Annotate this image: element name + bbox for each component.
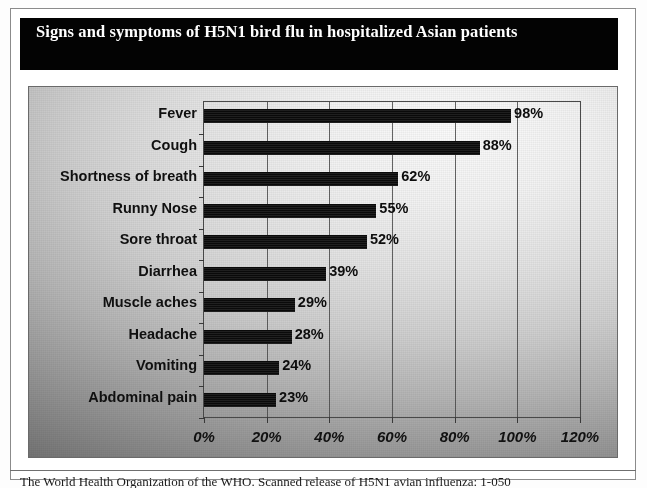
bar-value-label: 28% (295, 325, 324, 344)
bar (204, 393, 276, 407)
bar-value-label: 23% (279, 388, 308, 407)
chart-row: Headache28% (204, 323, 580, 355)
chart-row: Abdominal pain23% (204, 386, 580, 418)
bar-value-label: 24% (282, 356, 311, 375)
x-tick-40% (329, 417, 330, 423)
chart-row: Muscle aches29% (204, 291, 580, 323)
bar-value-label: 62% (401, 167, 430, 186)
caption-divider (10, 470, 636, 471)
chart-row: Diarrhea39% (204, 260, 580, 292)
bar-value-label: 98% (514, 104, 543, 123)
x-tick-80% (455, 417, 456, 423)
bar-value-label: 55% (379, 199, 408, 218)
x-tick-20% (267, 417, 268, 423)
x-axis-label: 20% (252, 428, 282, 445)
bar (204, 235, 367, 249)
category-label: Abdominal pain (88, 387, 197, 408)
bar (204, 204, 376, 218)
category-label: Shortness of breath (60, 166, 197, 187)
x-axis-label: 40% (314, 428, 344, 445)
chart-row: Shortness of breath62% (204, 165, 580, 197)
bar (204, 330, 292, 344)
bar (204, 172, 398, 186)
x-axis-label: 80% (440, 428, 470, 445)
x-axis-label: 60% (377, 428, 407, 445)
bar-value-label: 29% (298, 293, 327, 312)
chart-row: Cough88% (204, 134, 580, 166)
chart-row: Sore throat52% (204, 228, 580, 260)
x-axis-label: 100% (498, 428, 536, 445)
x-tick-120% (580, 417, 581, 423)
bar (204, 267, 326, 281)
bar (204, 298, 295, 312)
x-tick-60% (392, 417, 393, 423)
category-label: Diarrhea (138, 261, 197, 282)
bar (204, 109, 511, 123)
x-axis-label: 120% (561, 428, 599, 445)
page-title: Signs and symptoms of H5N1 bird flu in h… (36, 22, 518, 42)
x-tick-100% (517, 417, 518, 423)
category-label: Vomiting (136, 355, 197, 376)
x-axis-label: 0% (193, 428, 215, 445)
chart-plot-area: Fever98%Cough88%Shortness of breath62%Ru… (203, 101, 581, 418)
figure-page: Signs and symptoms of H5N1 bird flu in h… (0, 0, 647, 488)
chart-row: Fever98% (204, 102, 580, 134)
bar-value-label: 39% (329, 262, 358, 281)
bar-value-label: 88% (483, 136, 512, 155)
category-label: Sore throat (120, 229, 197, 250)
bar (204, 361, 279, 375)
category-label: Headache (128, 324, 197, 345)
bar-value-label: 52% (370, 230, 399, 249)
category-label: Runny Nose (112, 198, 197, 219)
category-label: Cough (151, 135, 197, 156)
figure-caption: The World Health Organization of the WHO… (20, 474, 630, 488)
chart-row: Runny Nose55% (204, 197, 580, 229)
chart-row: Vomiting24% (204, 354, 580, 386)
bar (204, 141, 480, 155)
chart-container: Fever98%Cough88%Shortness of breath62%Ru… (28, 86, 618, 458)
category-label: Muscle aches (103, 292, 197, 313)
gridline-120% (580, 102, 581, 417)
x-tick-0% (204, 417, 205, 423)
category-label: Fever (158, 103, 197, 124)
figure-title-banner: Signs and symptoms of H5N1 bird flu in h… (20, 18, 618, 70)
chart-bar-rows: Fever98%Cough88%Shortness of breath62%Ru… (204, 102, 580, 417)
